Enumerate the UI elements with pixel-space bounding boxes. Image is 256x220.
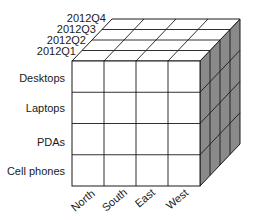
product-label-cell-phones: Cell phones	[7, 165, 66, 177]
region-label-west: West	[164, 186, 191, 211]
region-label-south: South	[100, 186, 130, 214]
product-label-pdas: PDAs	[37, 136, 66, 148]
product-label-laptops: Laptops	[26, 102, 66, 114]
quarter-label-q1: 2012Q1	[37, 45, 76, 57]
region-label-north: North	[69, 187, 97, 213]
region-label-east: East	[133, 186, 158, 209]
data-cube-diagram: 2012Q4 2012Q3 2012Q2 2012Q1 Desktops Lap…	[0, 0, 256, 220]
product-label-desktops: Desktops	[19, 72, 65, 84]
